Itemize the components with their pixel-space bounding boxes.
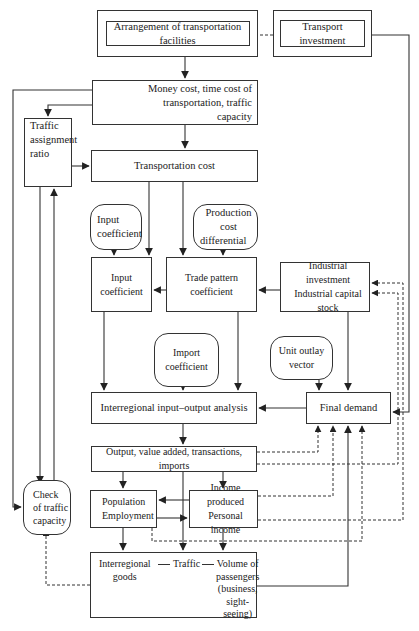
interregional-io-label: Interregional input–output analysis xyxy=(101,401,248,415)
input-coefficient-box: Input coefficient xyxy=(91,257,152,312)
flow-diagram: Arrangement of transportation facilities… xyxy=(0,0,419,631)
interregional-io-box: Interregional input–output analysis xyxy=(91,392,257,424)
income-produced-label: Income produced xyxy=(194,481,257,509)
arrangement-outer-box: Arrangement of transportation facilities xyxy=(97,10,258,57)
traffic-assignment-line2: assignment xyxy=(30,133,77,147)
personal-income-label: Personal income xyxy=(194,509,257,537)
goods-line2: goods xyxy=(99,571,151,584)
interregional-goods-text: Interregional goods xyxy=(99,558,151,583)
unit-outlay-vector-label: Unit outlay vector xyxy=(271,344,332,372)
population-label: Population xyxy=(102,495,145,509)
production-cost-line1: Production cost xyxy=(200,206,257,234)
production-cost-line2: differential xyxy=(200,234,246,248)
passengers-line4: sight-seeing) xyxy=(216,596,259,621)
input-coefficient-label: Input coefficient xyxy=(92,271,151,299)
dash-connector-2 xyxy=(202,564,214,565)
import-coefficient-node: Import coefficient xyxy=(154,333,219,387)
traffic-assignment-line1: Traffic xyxy=(30,119,59,133)
final-demand-label: Final demand xyxy=(320,401,377,415)
passengers-line1: Volume of xyxy=(216,558,259,571)
traffic-volume-box: Interregional goods Traffic Volume of pa… xyxy=(90,552,257,618)
check-traffic-line2: of traffic xyxy=(33,501,68,514)
transportation-cost-box: Transportation cost xyxy=(91,150,258,182)
check-traffic-line1: Check xyxy=(33,488,59,501)
input-coefficient-param-line2: coefficient xyxy=(97,227,142,241)
population-employment-box: Population Employment xyxy=(90,490,157,528)
dash-connector-1 xyxy=(158,564,170,565)
traffic-label: Traffic xyxy=(173,558,200,571)
passengers-line2: passengers xyxy=(216,571,259,584)
money-cost-box: Money cost, time cost of transportation,… xyxy=(92,80,258,125)
arrangement-box: Arrangement of transportation facilities xyxy=(106,21,250,46)
income-box: Income produced Personal income xyxy=(189,490,258,528)
arrangement-label: Arrangement of transportation facilities xyxy=(107,20,249,48)
check-traffic-line3: capacity xyxy=(33,514,66,527)
money-cost-line2: capacity xyxy=(217,110,252,124)
passengers-line3: (business, xyxy=(216,583,259,596)
transport-investment-box: Transport investment xyxy=(280,20,365,47)
industrial-investment-label: Industrial investment xyxy=(287,259,369,287)
traffic-assignment-line3: ratio xyxy=(30,147,49,161)
production-cost-differential-node: Production cost differential xyxy=(193,204,258,250)
unit-outlay-vector-node: Unit outlay vector xyxy=(270,336,333,380)
industrial-capital-stock-label: Industrial capital stock xyxy=(287,287,369,315)
transportation-cost-label: Transportation cost xyxy=(134,159,215,173)
check-traffic-capacity-node: Check of traffic capacity xyxy=(23,480,71,535)
traffic-text: Traffic xyxy=(173,558,200,571)
traffic-assignment-box: Traffic assignment ratio xyxy=(24,118,72,187)
import-coefficient-label: Import coefficient xyxy=(155,346,218,374)
input-coefficient-param-line1: Input xyxy=(97,213,119,227)
trade-pattern-label: Trade pattern coefficient xyxy=(167,271,256,299)
output-box: Output, value added, transactions, impor… xyxy=(91,446,257,472)
input-coefficient-param-node: Input coefficient xyxy=(90,204,142,250)
transport-investment-label: Transport investment xyxy=(281,20,364,48)
goods-line1: Interregional xyxy=(99,558,151,571)
money-cost-line1: Money cost, time cost of transportation,… xyxy=(93,82,252,110)
output-label: Output, value added, transactions, impor… xyxy=(92,445,256,473)
trade-pattern-coefficient-box: Trade pattern coefficient xyxy=(166,257,257,312)
industrial-investment-box: Industrial investment Industrial capital… xyxy=(280,262,370,312)
transport-investment-outer-box: Transport investment xyxy=(273,10,372,57)
final-demand-box: Final demand xyxy=(306,392,391,424)
passengers-text: Volume of passengers (business, sight-se… xyxy=(216,558,259,621)
employment-label: Employment xyxy=(102,509,154,523)
